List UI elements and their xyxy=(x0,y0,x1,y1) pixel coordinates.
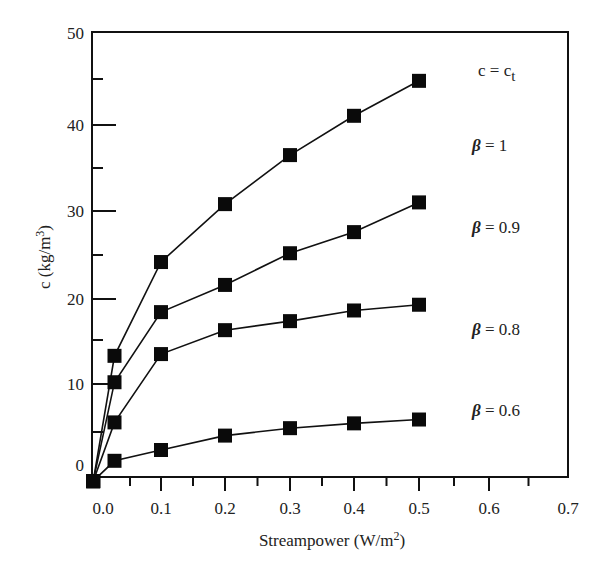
square-marker xyxy=(283,148,297,162)
series-label: β = 0.8 xyxy=(471,320,520,339)
square-marker xyxy=(108,375,122,389)
square-marker xyxy=(347,416,361,430)
x-axis-ticks: 0.00.10.20.30.40.50.60.7 xyxy=(92,477,579,518)
series-label: β = 1 xyxy=(471,136,507,155)
y-tick-label: 50 xyxy=(67,24,84,43)
square-marker xyxy=(412,298,426,312)
square-marker xyxy=(412,74,426,88)
square-marker xyxy=(86,474,100,488)
x-tick-label: 0.1 xyxy=(150,499,171,518)
series-labels: c = ctβ = 1β = 0.9β = 0.8β = 0.6 xyxy=(471,61,520,420)
x-tick-label: 0.7 xyxy=(557,499,579,518)
x-axis-title: Streampower (W/m2) xyxy=(259,529,405,550)
square-marker xyxy=(412,413,426,427)
square-marker xyxy=(283,421,297,435)
y-tick-label: 20 xyxy=(67,290,84,309)
x-tick-label: 0.4 xyxy=(343,499,365,518)
square-marker xyxy=(218,197,232,211)
x-tick-label: 0.2 xyxy=(214,499,235,518)
x-tick-label: 0.6 xyxy=(478,499,499,518)
series-label: β = 0.9 xyxy=(471,218,520,237)
square-marker xyxy=(154,443,168,457)
y-tick-label: 10 xyxy=(67,375,84,394)
line-chart: 0.00.10.20.30.40.50.60.7 01020304050 c =… xyxy=(0,0,607,571)
series-line xyxy=(86,195,426,488)
square-marker xyxy=(218,278,232,292)
data-series xyxy=(86,74,426,488)
square-marker xyxy=(154,305,168,319)
y-axis-title: c (kg/m3) xyxy=(33,225,54,289)
x-tick-label: 0.3 xyxy=(279,499,300,518)
square-marker xyxy=(412,195,426,209)
series-line xyxy=(86,298,426,488)
square-marker xyxy=(347,303,361,317)
square-marker xyxy=(347,225,361,239)
square-marker xyxy=(154,347,168,361)
series-line xyxy=(86,74,426,488)
x-tick-label: 0.5 xyxy=(408,499,429,518)
square-marker xyxy=(108,415,122,429)
square-marker xyxy=(154,255,168,269)
y-tick-label: 0 xyxy=(76,456,85,475)
square-marker xyxy=(218,323,232,337)
square-marker xyxy=(283,246,297,260)
square-marker xyxy=(218,429,232,443)
square-marker xyxy=(347,109,361,123)
x-tick-label: 0.0 xyxy=(92,499,113,518)
y-tick-label: 40 xyxy=(67,116,84,135)
series-label: β = 0.6 xyxy=(471,401,520,420)
square-marker xyxy=(108,349,122,363)
series-label: c = ct xyxy=(478,61,516,84)
square-marker xyxy=(108,454,122,468)
square-marker xyxy=(283,314,297,328)
y-tick-label: 30 xyxy=(67,202,84,221)
